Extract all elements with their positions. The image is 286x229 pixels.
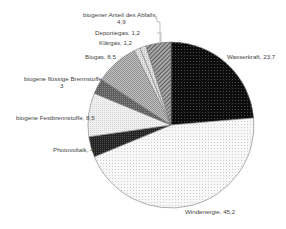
label-biogas: Biogas, 8,5 xyxy=(85,53,117,60)
label-deponiegas: Deponiegas, 1,2 xyxy=(95,29,141,36)
leader-line-deponiegas xyxy=(157,33,161,44)
label-biogene-festbrennstoffe: biogene Festbrennstoffe, 8,5 xyxy=(16,114,95,121)
label-biogener-anteil-abfall: biogener Anteil des Abfalls, xyxy=(83,11,158,18)
label-biogene-fluessige-brennstoffe: biogene flüssige Brennstoffe, xyxy=(24,75,104,82)
label-biogene-fluessige-brennstoffe-value: 3 xyxy=(60,82,64,89)
label-biogener-anteil-abfall-value: 4,9 xyxy=(117,18,126,25)
label-wasserkraft: Wasserkraft, 23,7 xyxy=(227,53,276,60)
pie-chart: Wasserkraft, 23,7 Windenergie, 45,2 Phot… xyxy=(0,0,286,229)
label-photovoltaik: Photovoltaik, 4 xyxy=(53,146,94,153)
leader-line-abfall xyxy=(155,18,160,42)
pie-slices xyxy=(88,42,254,208)
label-windenergie: Windenergie, 45,2 xyxy=(185,208,236,215)
leader-lines xyxy=(155,18,161,46)
label-klaergas: Klärgas, 1,2 xyxy=(99,39,133,46)
